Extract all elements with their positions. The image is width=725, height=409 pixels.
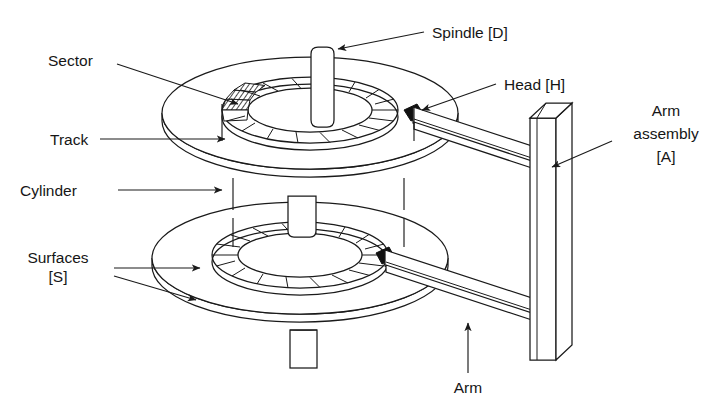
label-track: Track <box>50 131 88 148</box>
label-spindle: Spindle [D] <box>432 24 508 41</box>
label-arm: Arm <box>454 379 482 396</box>
label-arm-assembly-2: assembly <box>633 125 699 142</box>
label-sector: Sector <box>48 52 93 69</box>
actuator-arm-assembly-column <box>530 103 572 360</box>
label-cylinder: Cylinder <box>20 182 77 199</box>
spindle-bottom-stub <box>290 330 317 368</box>
label-arm-assembly-3: [A] <box>657 148 676 165</box>
label-surfaces: Surfaces <box>27 249 88 266</box>
label-head: Head [H] <box>504 76 565 93</box>
hdd-structure-diagram: Sector Track Cylinder Surfaces [S] Spind… <box>0 0 725 409</box>
leader-spindle <box>338 32 424 49</box>
label-arm-assembly-1: Arm <box>652 102 680 119</box>
diagram-canvas: Sector Track Cylinder Surfaces [S] Spind… <box>0 0 725 409</box>
spindle-shaft <box>311 47 334 127</box>
label-surfaces-bracket: [S] <box>49 268 68 285</box>
spindle-lower-segment <box>288 196 316 237</box>
